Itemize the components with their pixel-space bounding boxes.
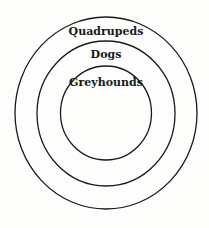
euler-diagram: Quadrupeds Dogs Greyhounds <box>0 0 209 228</box>
label-greyhounds: Greyhounds <box>69 76 143 89</box>
circle-quadrupeds <box>15 17 197 209</box>
label-quadrupeds: Quadrupeds <box>69 25 144 38</box>
label-dogs: Dogs <box>91 48 122 61</box>
circle-dogs <box>37 41 175 186</box>
